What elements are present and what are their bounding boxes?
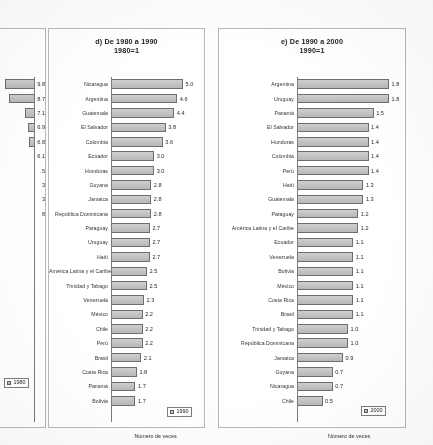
scanned-page: 9.88.77.16.96.86.1.5338 veces 1980 d) De… [0,0,433,445]
bar [111,123,166,133]
bar-value-label: 1.7 [135,383,145,389]
bar [297,295,353,305]
bar-value-label: 1.5 [374,110,384,116]
chart-bar-row: Venezuela2.3 [49,293,204,307]
chart-bar-row: Ecuador3.0 [49,149,204,163]
chart-e-axis-spine [297,77,298,422]
chart-bar-row: El Salvador1.4 [219,120,405,134]
bar-value-label: 1.8 [389,96,399,102]
chart-bar-row: Jamaica0.9 [219,350,405,364]
chart-bar-row: Costa Rica1.8 [49,365,204,379]
chart-panel-e: e) De 1990 a 2000 1990=1 Argentina1.8Uru… [218,28,406,428]
bar-category-label: Haití [219,182,297,188]
bar-value-label: 2.2 [143,311,153,317]
chart-bar-row: 3 [0,178,45,192]
bar-value-label: 2.3 [144,297,154,303]
bar-value-label: 1.4 [369,139,379,145]
bar [297,209,358,219]
bar-track: 8 [0,207,45,221]
chart-bar-row: Colombia3.6 [49,135,204,149]
bar-value-label: 3.8 [166,124,176,130]
bar-value-label: 2.7 [150,254,160,260]
bar-category-label: Honduras [219,139,297,145]
bar-track: 2.8 [111,192,204,206]
bar-track: 1.1 [297,264,405,278]
bar-track: 1.7 [111,379,204,393]
chart-bar-row: América Latina y el Caribe1.2 [219,221,405,235]
chart-bar-row: Guyana2.8 [49,178,204,192]
chart-e-plot-area: Argentina1.8Uruguay1.8Panamá1.5El Salvad… [219,77,405,408]
bar [297,108,374,118]
chart-d-axis-spine [111,77,112,422]
bar-category-label: Bolivia [49,398,111,404]
chart-bar-row: Haití2.7 [49,250,204,264]
bar-track: 3 [0,192,45,206]
bar [111,310,143,320]
bar-track: 3.6 [111,135,204,149]
bar-category-label: República Dominicana [219,340,297,346]
bar-value-label: 0.7 [333,383,343,389]
bar-track: 3.0 [111,149,204,163]
bar-value-label: 6.1 [35,153,45,159]
legend-swatch-icon [7,381,11,385]
bar-track: 0.7 [297,379,405,393]
bar-value-label: 2.8 [151,211,161,217]
bar-category-label: Perú [219,168,297,174]
bar-track: 3.0 [111,163,204,177]
chart-bar-row: Bolivia1.7 [49,394,204,408]
bar-category-label: Honduras [49,168,111,174]
chart-bar-row: Paraguay1.2 [219,207,405,221]
bar-category-label: Chile [219,398,297,404]
bar-value-label: 1.1 [353,239,363,245]
chart-d-axis-label: Número de veces [111,433,200,439]
bar-value-label: 8.7 [35,96,45,102]
bar [297,137,369,147]
chart-bar-row: 8.7 [0,91,45,105]
chart-bar-row: Nicaragua0.7 [219,379,405,393]
bar-track: 2.3 [111,293,204,307]
bar-value-label: 1.0 [348,326,358,332]
bar-track: 2.8 [111,207,204,221]
bar [111,94,177,104]
bar-value-label: 3.0 [154,153,164,159]
chart-bar-row: República Dominicana1.0 [219,336,405,350]
bar-category-label: Brasil [219,311,297,317]
chart-bar-row: Perú2.2 [49,336,204,350]
bar-track: 1.2 [297,221,405,235]
bar [297,151,369,161]
bar-track: 1.2 [297,207,405,221]
bar-track: 1.8 [297,91,405,105]
legend-swatch-icon [364,409,368,413]
bar-category-label: Guatemala [219,196,297,202]
chart-bar-row: República Dominicana2.8 [49,207,204,221]
chart-bar-row: Trinidad y Tabago1.0 [219,322,405,336]
chart-bar-row: Panamá1.7 [49,379,204,393]
bar-track: 1.4 [297,135,405,149]
chart-bar-row: Argentina4.6 [49,91,204,105]
bar [297,195,363,205]
bar-value-label: 6.8 [35,139,45,145]
bar-value-label: 9.8 [35,81,45,87]
bar-track: 1.3 [297,178,405,192]
chart-bar-row: 6.9 [0,120,45,134]
bar-category-label: Argentina [49,96,111,102]
chart-bar-row: Guatemala4.4 [49,106,204,120]
bar [297,238,353,248]
bar-category-label: República Dominicana [49,211,111,217]
chart-bar-row: Brasil2.1 [49,350,204,364]
bar-track: 2.2 [111,336,204,350]
bar-track: 2.2 [111,322,204,336]
bar-value-label: 1.3 [363,196,373,202]
chart-bar-row: Costa Rica1.1 [219,293,405,307]
bar [297,338,348,348]
bar-category-label: Haití [49,254,111,260]
bar-value-label: 4.4 [174,110,184,116]
bar [111,238,150,248]
bar-track: 1.0 [297,336,405,350]
chart-e-axis-label: Número de veces [297,433,401,439]
bar [111,324,143,334]
bar-value-label: 3 [39,182,45,188]
bar-category-label: Brasil [49,355,111,361]
bar-category-label: Perú [49,340,111,346]
bar-value-label: 2.5 [147,283,157,289]
